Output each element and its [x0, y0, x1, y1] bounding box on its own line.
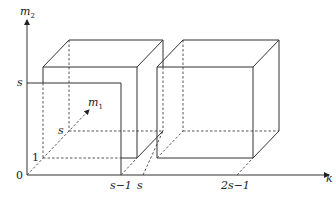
box-2	[157, 40, 279, 158]
m1-axis	[27, 110, 89, 175]
origin-label: 0	[16, 169, 23, 182]
guide-lines	[43, 40, 279, 175]
k-2s-minus-1-label: 2s−1	[220, 179, 250, 192]
vertical-s-label: s	[17, 76, 23, 89]
m1-axis-label: m1	[88, 96, 103, 111]
s-boundary-line	[27, 83, 121, 175]
box-1	[43, 40, 163, 158]
vertical-1-label: 1	[32, 151, 39, 164]
k-axis-label: k	[326, 172, 333, 185]
k-s-minus-1-label: s−1	[110, 179, 132, 192]
k-s-label: s	[137, 179, 143, 192]
m2-axis-label: m2	[20, 5, 35, 20]
box-diagram: m2 k m1 0 s 1 s s−1 s 2s−1	[0, 0, 336, 197]
depth-s-label: s	[58, 124, 64, 137]
